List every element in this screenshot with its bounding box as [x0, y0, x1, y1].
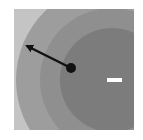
- test-particle: [66, 63, 76, 73]
- field-diagram: [0, 0, 143, 140]
- negative-charge-icon: [107, 78, 122, 82]
